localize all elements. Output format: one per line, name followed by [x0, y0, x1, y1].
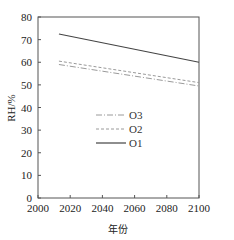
legend: O3O2O1 [96, 109, 143, 149]
line-chart: 01020304050607080 2000202020402060208021… [0, 0, 234, 240]
y-tick-label: 50 [21, 79, 33, 91]
x-tick-label: 2080 [156, 202, 179, 214]
y-tick-label: 40 [21, 102, 33, 114]
y-tick-label: 10 [21, 169, 33, 181]
series-lines [59, 34, 199, 86]
series-line-o1 [59, 34, 199, 62]
y-axis-label: RH/% [5, 94, 17, 122]
legend-label-o1: O1 [129, 137, 142, 149]
series-line-o2 [59, 61, 199, 82]
x-tick-label: 2040 [91, 202, 114, 214]
series-line-o3 [59, 65, 199, 86]
y-tick-label: 80 [21, 11, 33, 23]
x-tick-label: 2100 [188, 202, 211, 214]
x-tick-label: 2060 [124, 202, 147, 214]
legend-label-o3: O3 [129, 109, 143, 121]
x-axis-label: 年份 [108, 223, 128, 235]
x-tick-label: 2020 [59, 202, 82, 214]
y-axis: 01020304050607080 [21, 11, 41, 204]
y-tick-label: 60 [21, 56, 33, 68]
y-tick-label: 20 [21, 147, 33, 159]
x-tick-label: 2000 [27, 202, 50, 214]
legend-label-o2: O2 [129, 123, 142, 135]
plot-area-border [38, 17, 199, 198]
y-tick-label: 70 [21, 34, 33, 46]
y-tick-label: 30 [21, 124, 33, 136]
plot-frame [38, 17, 199, 198]
